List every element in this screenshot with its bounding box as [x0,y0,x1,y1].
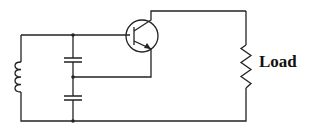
load-resistor [241,45,251,88]
wire-left-lower [21,88,246,121]
capacitor-c1 [64,58,82,62]
circuit-diagram: Load [0,0,315,130]
inductor [15,62,21,92]
junction-dot [71,33,75,37]
junction-dot [71,119,75,123]
npn-transistor [73,11,246,77]
capacitor-c2 [64,96,82,100]
load-label: Load [259,52,297,71]
